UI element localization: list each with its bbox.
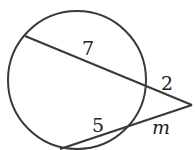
bottom-secant	[60, 105, 192, 149]
top-secant	[25, 36, 192, 105]
label-bottom-inner: 5	[92, 116, 104, 135]
label-bottom-outer: m	[152, 118, 170, 137]
label-top-inner: 7	[82, 39, 94, 58]
diagram: 7 2 5 m	[0, 0, 196, 150]
label-top-outer: 2	[161, 74, 173, 93]
